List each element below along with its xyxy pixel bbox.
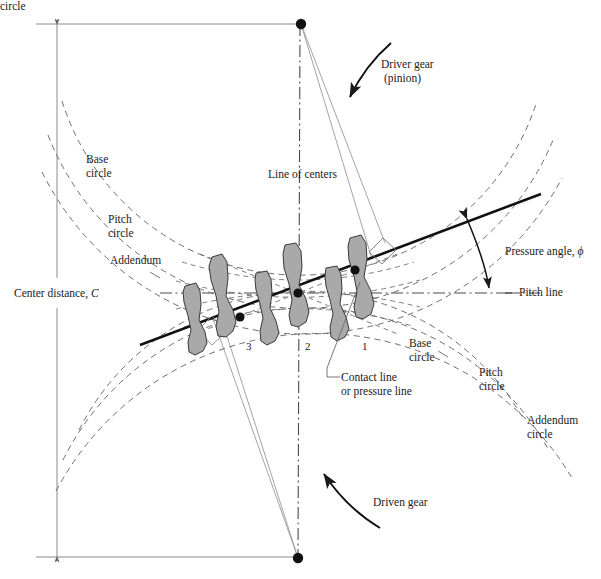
- contact-line-label-2: or pressure line: [341, 385, 412, 399]
- tooth-pair-1: [325, 235, 374, 341]
- driven-gear-arrow: [324, 474, 380, 528]
- driver-gear-label-line2: (pinion): [384, 72, 421, 86]
- center-distance-label: Center distance, C: [14, 287, 99, 301]
- tooth-position-3-label: 3: [246, 340, 252, 352]
- left-addendum-circle-label-2: circle: [0, 0, 26, 14]
- driver-gear-label-line1: Driver gear: [381, 58, 434, 72]
- line-of-centers-label: Line of centers: [268, 168, 337, 182]
- pressure-angle-symbol: ϕ: [578, 245, 584, 257]
- pitch-line-label: Pitch line: [519, 286, 563, 300]
- left-pitch-circle-label-2: circle: [108, 227, 134, 241]
- gear-pitch-circle: [63, 308, 548, 460]
- right-pitch-circle-label-2: circle: [479, 380, 505, 394]
- left-pitch-circle-label-1: Pitch: [108, 213, 132, 227]
- gear-addendum-circle: [56, 333, 572, 491]
- right-addendum-circle-label-2: circle: [527, 428, 553, 442]
- gear-radial-lines: [212, 316, 298, 558]
- tooth-2-pinion: [255, 271, 279, 345]
- contact-line-label-1: Contact line: [341, 371, 397, 385]
- right-base-circle-label-1: Base: [409, 337, 431, 351]
- left-base-circle-label-1: Base: [86, 153, 108, 167]
- contact-point-3: [235, 312, 244, 321]
- left-addendum-circle-label-1: Addendum: [110, 254, 161, 268]
- left-base-circle-label-2: circle: [86, 167, 112, 181]
- tooth-1-gear: [348, 235, 374, 319]
- gear-center-dot: [293, 553, 303, 563]
- tooth-2-gear: [283, 243, 309, 327]
- right-addendum-circle-label-1: Addendum: [527, 414, 578, 428]
- pinion-radial-lines: [301, 24, 385, 259]
- driven-gear-label: Driven gear: [373, 496, 428, 510]
- contact-point-2: [293, 288, 302, 297]
- tooth-position-2-label: 2: [305, 340, 311, 352]
- tooth-3-gear: [209, 254, 236, 337]
- gear-diagram-figure: Center distance, C Line of centers Drive…: [0, 0, 601, 579]
- tooth-3-pinion: [183, 283, 207, 355]
- right-pitch-circle-label-1: Pitch: [479, 366, 503, 380]
- contact-point-1: [350, 265, 359, 274]
- tooth-position-1-label: 1: [362, 340, 368, 352]
- pinion-center-dot: [296, 19, 306, 29]
- right-base-circle-label-2: circle: [409, 351, 435, 365]
- pressure-angle-label: Pressure angle, ϕ: [505, 245, 583, 259]
- pressure-angle-arc: [467, 219, 489, 288]
- center-distance-symbol: C: [91, 287, 99, 299]
